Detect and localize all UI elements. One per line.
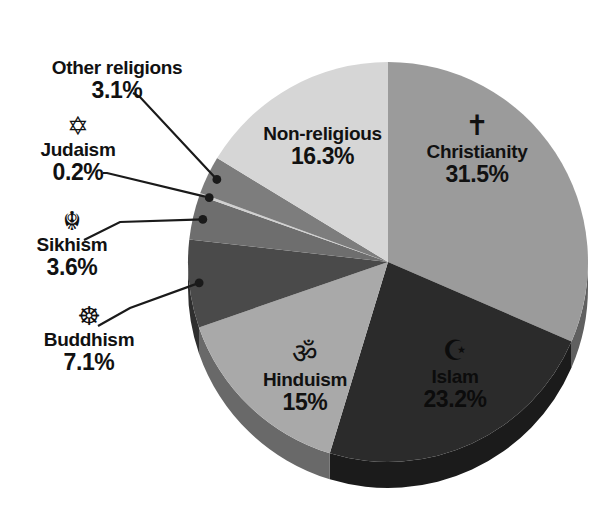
leader-dot-buddhism [195,278,204,287]
slice-label-non-religious-value: 16.3% [245,144,400,168]
slice-label-non-religious: Non-religious 16.3% [245,124,400,169]
slice-label-islam-name: Islam [385,367,525,387]
label-judaism-name: Judaism [18,140,138,160]
cross-icon: ✝ [402,112,552,140]
leader-line-other-religions [133,93,217,179]
label-judaism: ✡ Judaism 0.2% [18,113,138,184]
label-other-religions-name: Other religions [42,58,192,78]
label-other-religions-value: 3.1% [42,78,192,102]
label-buddhism-value: 7.1% [24,350,154,374]
label-other-religions: Other religions 3.1% [42,58,192,102]
pie-chart-figure: Other religions 3.1% ✡ Judaism 0.2% ☬ Si… [0,0,615,511]
label-judaism-value: 0.2% [18,160,138,184]
label-sikhism-value: 3.6% [12,255,132,279]
slice-label-christianity-name: Christianity [402,142,552,162]
label-sikhism-name: Sikhism [12,235,132,255]
star-of-david-icon: ✡ [18,113,138,139]
slice-label-hinduism-value: 15% [235,390,375,414]
slice-label-christianity: ✝ Christianity 31.5% [402,112,552,187]
slice-label-islam-value: 23.2% [385,387,525,411]
star-and-crescent-icon: ☪ [385,337,525,365]
slice-label-christianity-value: 31.5% [402,162,552,186]
om-icon: ॐ [235,340,375,368]
leader-dot-judaism [205,193,214,202]
slice-label-non-religious-name: Non-religious [245,124,400,144]
slice-label-hinduism: ॐ Hinduism 15% [235,340,375,415]
leader-dot-other-religions [212,175,221,184]
khanda-icon: ☬ [12,208,132,234]
slice-label-hinduism-name: Hinduism [235,370,375,390]
label-buddhism-name: Buddhism [24,330,154,350]
leader-dot-sikhism [198,215,207,224]
label-sikhism: ☬ Sikhism 3.6% [12,208,132,279]
label-buddhism: ☸ Buddhism 7.1% [24,303,154,374]
dharma-wheel-icon: ☸ [24,303,154,329]
slice-label-islam: ☪ Islam 23.2% [385,337,525,412]
